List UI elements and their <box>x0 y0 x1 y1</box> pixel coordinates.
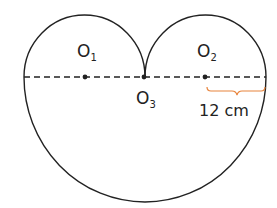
point-o1 <box>83 75 88 80</box>
label-o2: O2 <box>197 43 217 63</box>
label-o3: O3 <box>136 90 156 110</box>
measure-brace <box>207 87 265 95</box>
point-o2 <box>203 75 208 80</box>
measure-label: 12 cm <box>199 103 249 119</box>
point-o3 <box>142 75 147 80</box>
diagram: O1 O2 O3 12 cm <box>0 0 277 208</box>
label-o1: O1 <box>77 43 97 63</box>
